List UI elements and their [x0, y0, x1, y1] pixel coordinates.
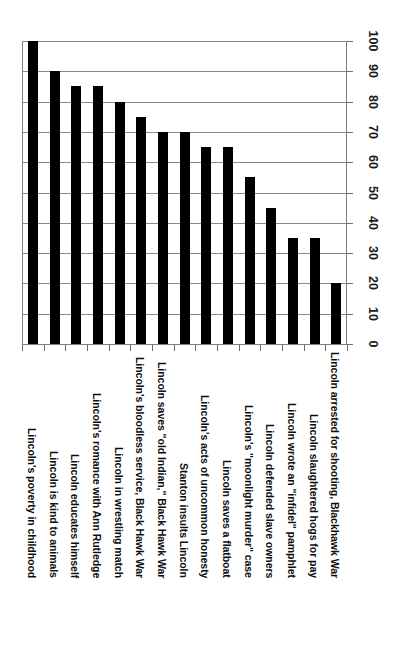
category-label: Lincoln saves "old Indian," Black Hawk W…	[155, 362, 168, 578]
category-tick	[44, 345, 45, 351]
category-tick	[22, 345, 23, 351]
bar	[201, 147, 211, 344]
value-tick-label-60: 60	[366, 145, 380, 179]
bar	[223, 147, 233, 344]
bar	[266, 208, 276, 344]
value-tick-100	[347, 41, 353, 42]
value-tick-80	[347, 102, 353, 103]
category-label: Lincoln's romance with Ann Rutledge	[90, 393, 103, 578]
bar	[288, 238, 298, 344]
value-tick-label-90: 90	[366, 54, 380, 88]
category-label: Lincoln is kind to animals	[47, 451, 60, 578]
value-tick-label-40: 40	[366, 206, 380, 240]
value-tick-label-0: 0	[366, 327, 380, 361]
category-tick	[195, 345, 196, 351]
value-tick-90	[347, 71, 353, 72]
category-tick	[87, 345, 88, 351]
bar	[28, 41, 38, 344]
category-label: Lincoln slaughtered hogs for pay	[307, 414, 320, 578]
bar	[115, 102, 125, 344]
value-tick-30	[347, 253, 353, 254]
bottom-category-axis-line	[22, 344, 347, 345]
bar	[245, 177, 255, 344]
category-label: Lincoln's "moonlight murder" case	[242, 405, 255, 578]
category-tick	[65, 345, 66, 351]
category-tick	[282, 345, 283, 351]
bar	[331, 283, 341, 344]
category-tick	[304, 345, 305, 351]
value-tick-50	[347, 193, 353, 194]
value-tick-label-10: 10	[366, 297, 380, 331]
value-tick-20	[347, 283, 353, 284]
bar	[50, 71, 60, 344]
category-label: Lincoln wrote an "infidel" pamphlet	[285, 403, 298, 578]
category-tick	[347, 345, 348, 351]
gridline-90	[22, 71, 347, 72]
bar	[310, 238, 320, 344]
category-tick	[325, 345, 326, 351]
category-label: Lincoln defended slave owners	[263, 424, 276, 578]
gridline-100	[22, 41, 347, 42]
category-tick	[260, 345, 261, 351]
category-tick	[130, 345, 131, 351]
value-tick-60	[347, 162, 353, 163]
category-label: Stanton insults Lincoln	[177, 463, 190, 578]
value-tick-label-50: 50	[366, 176, 380, 210]
category-label: Lincoln educates himself	[68, 454, 81, 578]
value-tick-label-20: 20	[366, 266, 380, 300]
value-tick-label-30: 30	[366, 236, 380, 270]
category-label: Lincoln's bloodless service, Black Hawk …	[133, 357, 146, 578]
value-tick-label-100: 100	[366, 24, 380, 58]
category-label: Lincoln's acts of uncommon honesty	[198, 395, 211, 578]
value-tick-label-80: 80	[366, 85, 380, 119]
category-label: Lincoln arrested for shooting, Blackhawk…	[328, 352, 341, 578]
category-tick	[109, 345, 110, 351]
bar	[93, 86, 103, 344]
bar	[180, 132, 190, 344]
category-label: Lincoln's poverty in childhood	[25, 428, 38, 578]
bar	[158, 132, 168, 344]
category-tick	[217, 345, 218, 351]
bar	[136, 117, 146, 344]
category-tick	[239, 345, 240, 351]
category-tick	[174, 345, 175, 351]
value-tick-10	[347, 314, 353, 315]
bar-chart: 0102030405060708090100 Lincoln's poverty…	[0, 0, 398, 651]
value-tick-70	[347, 132, 353, 133]
value-tick-40	[347, 223, 353, 224]
value-tick-label-70: 70	[366, 115, 380, 149]
category-label: Lincoln saves a flatboat	[220, 460, 233, 578]
category-tick	[152, 345, 153, 351]
category-label: Lincoln in wrestling match	[112, 447, 125, 578]
bar	[71, 86, 81, 344]
